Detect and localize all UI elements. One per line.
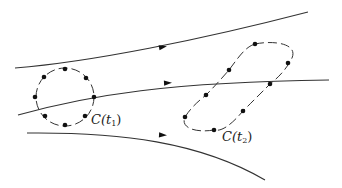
diagram-svg [0, 0, 342, 188]
material-point-dot [286, 61, 291, 66]
material-point-dot [212, 128, 217, 133]
material-point-dot [63, 123, 68, 128]
material-point-dot [84, 76, 89, 81]
material-point-dot [43, 114, 48, 119]
material-point-dot [253, 42, 258, 47]
material-point-dot [42, 75, 47, 80]
material-point-dot [63, 67, 68, 72]
material-point-dot [227, 68, 232, 73]
material-point-dot [92, 95, 97, 100]
streamline-top [15, 12, 308, 68]
material-curves [33, 42, 293, 133]
material-point-dot [83, 114, 88, 119]
label-c-t2-suffix: ) [247, 129, 252, 144]
streamline-middle [18, 80, 329, 115]
curve-t2 [184, 43, 293, 131]
material-point-dot [268, 82, 273, 87]
material-point-dot [183, 115, 188, 120]
label-c-t1: C(t1) [91, 113, 121, 128]
material-point-dot [33, 95, 38, 100]
material-point-dot [204, 93, 209, 98]
arrowhead-icon [164, 80, 172, 86]
label-c-t1-prefix: C( [91, 112, 106, 127]
label-c-t1-suffix: ) [116, 112, 121, 127]
flow-diagram: C(t1) C(t2) [0, 0, 342, 188]
label-c-t2: C(t2) [222, 130, 252, 145]
label-c-t2-prefix: C( [222, 129, 237, 144]
arrowhead-icon [159, 132, 167, 138]
material-point-dot [241, 109, 246, 114]
streamlines [15, 12, 329, 180]
